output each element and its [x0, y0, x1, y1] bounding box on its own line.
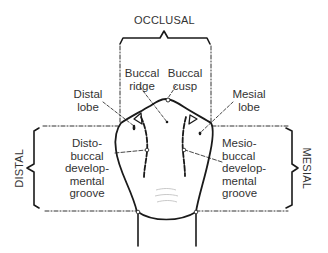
mesial-contact-point [194, 210, 198, 214]
tooth-diagram: OCCLUSAL Buccal ridge Buccal cusp Distal… [0, 0, 328, 253]
mesiobuccal-groove-point [182, 148, 186, 152]
mesial-lobe-triangle [189, 115, 197, 124]
distal-lobe-label: Distal lobe [68, 88, 108, 113]
mesiobuccal-groove-label: Mesio- buccal develop- mental groove [222, 137, 282, 200]
distal-brace [27, 128, 39, 208]
buccal-ridge-label: Buccal ridge [122, 67, 162, 92]
tooth-outline [115, 99, 213, 212]
leader-mesiobuccal-groove [185, 150, 222, 162]
mesiobuccal-depression [183, 117, 186, 176]
distobuccal-groove-point [145, 148, 149, 152]
mesial-label: MESIAL [301, 143, 314, 193]
mesial-lobe-point [199, 132, 202, 135]
distal-label: DISTAL [13, 143, 26, 193]
occlusal-label: OCCLUSAL [134, 14, 194, 27]
distal-lobe-point [133, 127, 136, 130]
mesial-lobe-label: Mesial lobe [229, 88, 269, 113]
distobuccal-groove-label: Disto- buccal develop- mental groove [60, 137, 114, 200]
buccal-ridge-point [166, 121, 169, 124]
leader-distobuccal-groove [115, 150, 146, 153]
distobuccal-depression [141, 117, 147, 178]
mesial-brace [286, 128, 298, 208]
buccal-cusp-label: Buccal cusp [165, 67, 205, 92]
leader-buccal-ridge [140, 87, 167, 122]
distal-contact-point [136, 210, 140, 214]
occlusal-brace [120, 31, 210, 44]
cusp-tip-point [166, 98, 170, 102]
cervical-line [138, 212, 196, 220]
diagram-lines [0, 0, 328, 253]
perikymata-marks [155, 189, 178, 203]
